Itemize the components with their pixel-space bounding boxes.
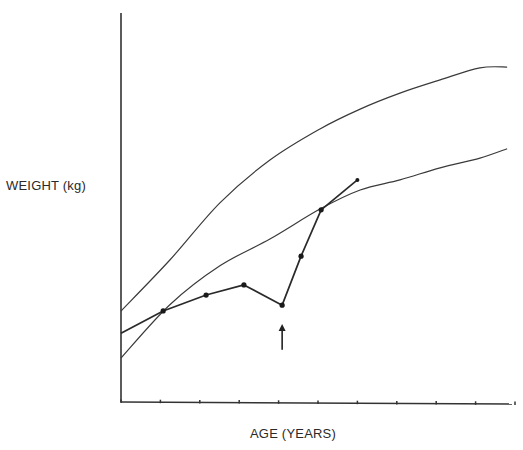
data-point-marker <box>298 254 303 259</box>
annotations <box>279 324 286 350</box>
data-point-marker <box>280 303 285 308</box>
patient-weight-series <box>121 178 359 333</box>
data-point-marker <box>161 308 166 313</box>
data-point-marker <box>204 292 209 297</box>
data-point-marker <box>241 282 246 287</box>
data-point-marker <box>355 178 359 182</box>
patient-weight-line <box>121 180 357 333</box>
data-point-marker <box>319 207 324 212</box>
growth-chart <box>0 0 523 450</box>
y-axis-label: WEIGHT (kg) <box>6 178 86 193</box>
x-axis-label: AGE (YEARS) <box>250 426 336 441</box>
upper-reference-curve <box>121 67 507 311</box>
x-axis <box>121 402 512 404</box>
axes <box>121 13 512 404</box>
arrow-up-icon <box>279 324 286 331</box>
lower-reference-curve <box>121 149 507 358</box>
reference-curves <box>121 67 507 358</box>
